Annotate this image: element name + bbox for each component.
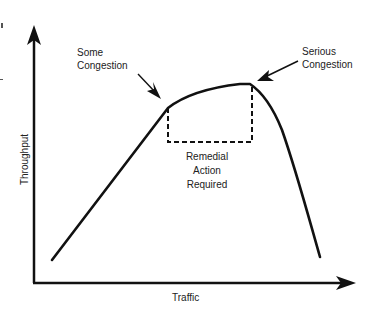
y-axis-label: Throughput xyxy=(18,128,31,192)
some-congestion-line-1: Some xyxy=(77,46,128,59)
edge-mark xyxy=(0,79,3,80)
remedial-line-1: Remedial xyxy=(175,150,239,164)
remedial-line-2: Action xyxy=(175,164,239,178)
some-congestion-arrowhead-icon xyxy=(147,82,161,99)
serious-congestion-arrow xyxy=(265,61,298,77)
edge-mark xyxy=(1,23,3,28)
remedial-line-3: Required xyxy=(175,178,239,192)
serious-congestion-label: Serious Congestion xyxy=(302,45,353,71)
remedial-region-dashed-box xyxy=(168,86,252,142)
some-congestion-line-2: Congestion xyxy=(77,59,128,72)
serious-congestion-arrowhead-icon xyxy=(257,70,274,81)
serious-congestion-line-1: Serious xyxy=(302,45,353,58)
some-congestion-label: Some Congestion xyxy=(77,46,128,72)
remedial-action-label: Remedial Action Required xyxy=(175,150,239,192)
x-axis-label: Traffic xyxy=(172,291,199,304)
serious-congestion-line-2: Congestion xyxy=(302,58,353,71)
